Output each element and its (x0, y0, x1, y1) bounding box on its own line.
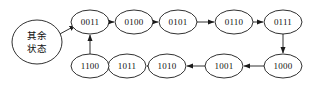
node-1010-label: 1010 (158, 61, 177, 71)
node-0101: 0101 (159, 10, 197, 34)
node-0111: 0111 (264, 10, 302, 34)
node-other-states-label-line1: 其余 (27, 30, 47, 41)
node-1000: 1000 (264, 54, 302, 78)
diagram-canvas: 其余 状态 0011 0100 0101 0110 0111 1000 (0, 0, 313, 88)
node-0110: 0110 (215, 10, 253, 34)
node-0100: 0100 (115, 10, 153, 34)
node-1011-label: 1011 (118, 61, 136, 71)
node-0011-label: 0011 (81, 17, 99, 27)
node-1011: 1011 (108, 54, 146, 78)
node-0101-label: 0101 (169, 17, 188, 27)
node-1100-label: 1100 (81, 61, 100, 71)
node-0111-label: 0111 (274, 17, 292, 27)
state-transition-diagram: 其余 状态 0011 0100 0101 0110 0111 1000 (0, 0, 313, 88)
node-1100: 1100 (71, 54, 109, 78)
node-other-states-label-line2: 状态 (27, 43, 47, 54)
node-0011: 0011 (71, 10, 109, 34)
node-1001: 1001 (205, 54, 243, 78)
node-0110-label: 0110 (225, 17, 244, 27)
node-other-states: 其余 状态 (12, 20, 62, 64)
node-0100-label: 0100 (125, 17, 144, 27)
node-1001-label: 1001 (215, 61, 234, 71)
node-1000-label: 1000 (274, 61, 293, 71)
node-1010: 1010 (148, 54, 186, 78)
